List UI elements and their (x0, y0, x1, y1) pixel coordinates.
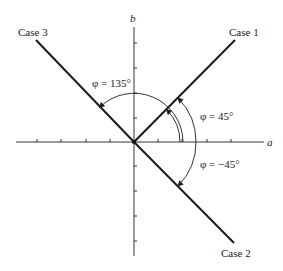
x-axis (16, 139, 264, 142)
angle-label-45: φ = 45° (200, 110, 233, 122)
phase-diagram (0, 0, 283, 271)
y-axis-label: b (130, 12, 136, 24)
arc-minus-45-and-45 (178, 98, 196, 142)
case-3-label: Case 3 (18, 26, 48, 38)
case-1-line (134, 40, 235, 142)
x-axis-label: a (267, 136, 273, 148)
arc-45 (167, 110, 181, 143)
case-2-label: Case 2 (221, 247, 251, 259)
case-3-line (36, 40, 134, 142)
arc-minus-45 (178, 142, 196, 186)
angle-label-minus-45: φ = −45° (200, 158, 240, 170)
angle-label-135: φ = 135° (92, 77, 131, 89)
case-1-label: Case 1 (229, 26, 259, 38)
